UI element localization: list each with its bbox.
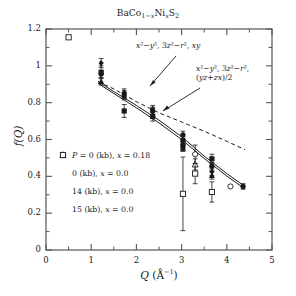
legend-label: 0 (kb), x = 0.0 bbox=[72, 169, 129, 178]
legend-item: P = 0 (kb), x = 0.18 bbox=[58, 150, 150, 161]
x-tick-label: 5 bbox=[260, 255, 284, 265]
legend-item: 15 (kb), x = 0.0 bbox=[58, 204, 150, 215]
x-tick-label: 3 bbox=[170, 255, 194, 265]
y-tick-label: 0.8 bbox=[12, 97, 41, 107]
x-tick-label: 1 bbox=[79, 255, 103, 265]
legend-item bbox=[58, 179, 150, 186]
figure-container: BaCo1−xNixS2 f(Q) Q (Å−1) 012345 00.20.4… bbox=[0, 0, 296, 296]
legend-item: 14 (kb), x = 0.0 bbox=[58, 186, 150, 197]
legend-item bbox=[58, 197, 150, 204]
legend-item bbox=[58, 161, 150, 168]
annotation-lower: x²−y², 3z²−r², (yz+zx)/2 bbox=[196, 64, 249, 83]
x-axis-label: Q (Å−1) bbox=[46, 268, 272, 281]
y-tick-label: 0.2 bbox=[12, 207, 41, 217]
x-tick-label: 0 bbox=[34, 255, 58, 265]
y-tick-label: 1.2 bbox=[12, 23, 41, 33]
legend-label: P = 0 (kb), x = 0.18 bbox=[72, 151, 150, 160]
legend-item bbox=[58, 215, 150, 222]
x-tick-label: 2 bbox=[124, 255, 148, 265]
x-tick-label: 4 bbox=[215, 255, 239, 265]
chart-title: BaCo1−xNixS2 bbox=[0, 8, 296, 20]
legend-item: 0 (kb), x = 0.0 bbox=[58, 168, 150, 179]
legend: P = 0 (kb), x = 0.18 0 (kb), x = 0.0 14 … bbox=[58, 150, 150, 222]
annotation-upper: x²−y², 3z²−r², xy bbox=[136, 41, 200, 50]
y-tick-label: 1 bbox=[12, 60, 41, 70]
legend-label: 15 (kb), x = 0.0 bbox=[72, 205, 133, 214]
y-tick-label: 0.6 bbox=[12, 134, 41, 144]
legend-label: 14 (kb), x = 0.0 bbox=[72, 187, 133, 196]
y-tick-label: 0 bbox=[12, 244, 41, 254]
y-tick-label: 0.4 bbox=[12, 170, 41, 180]
annotation-leaders bbox=[150, 56, 200, 111]
